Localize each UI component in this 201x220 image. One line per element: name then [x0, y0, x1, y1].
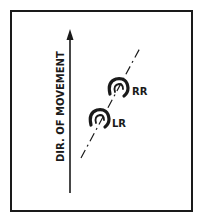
- arrowhead-icon: [67, 29, 74, 40]
- track-label-rr: RR: [132, 86, 148, 97]
- direction-arrow: [67, 29, 74, 193]
- track-centerline: [81, 48, 140, 158]
- track-diagram: DIR. OF MOVEMENT RR LR: [0, 0, 201, 220]
- direction-label: DIR. OF MOVEMENT: [55, 51, 66, 162]
- track-label-lr: LR: [112, 118, 126, 129]
